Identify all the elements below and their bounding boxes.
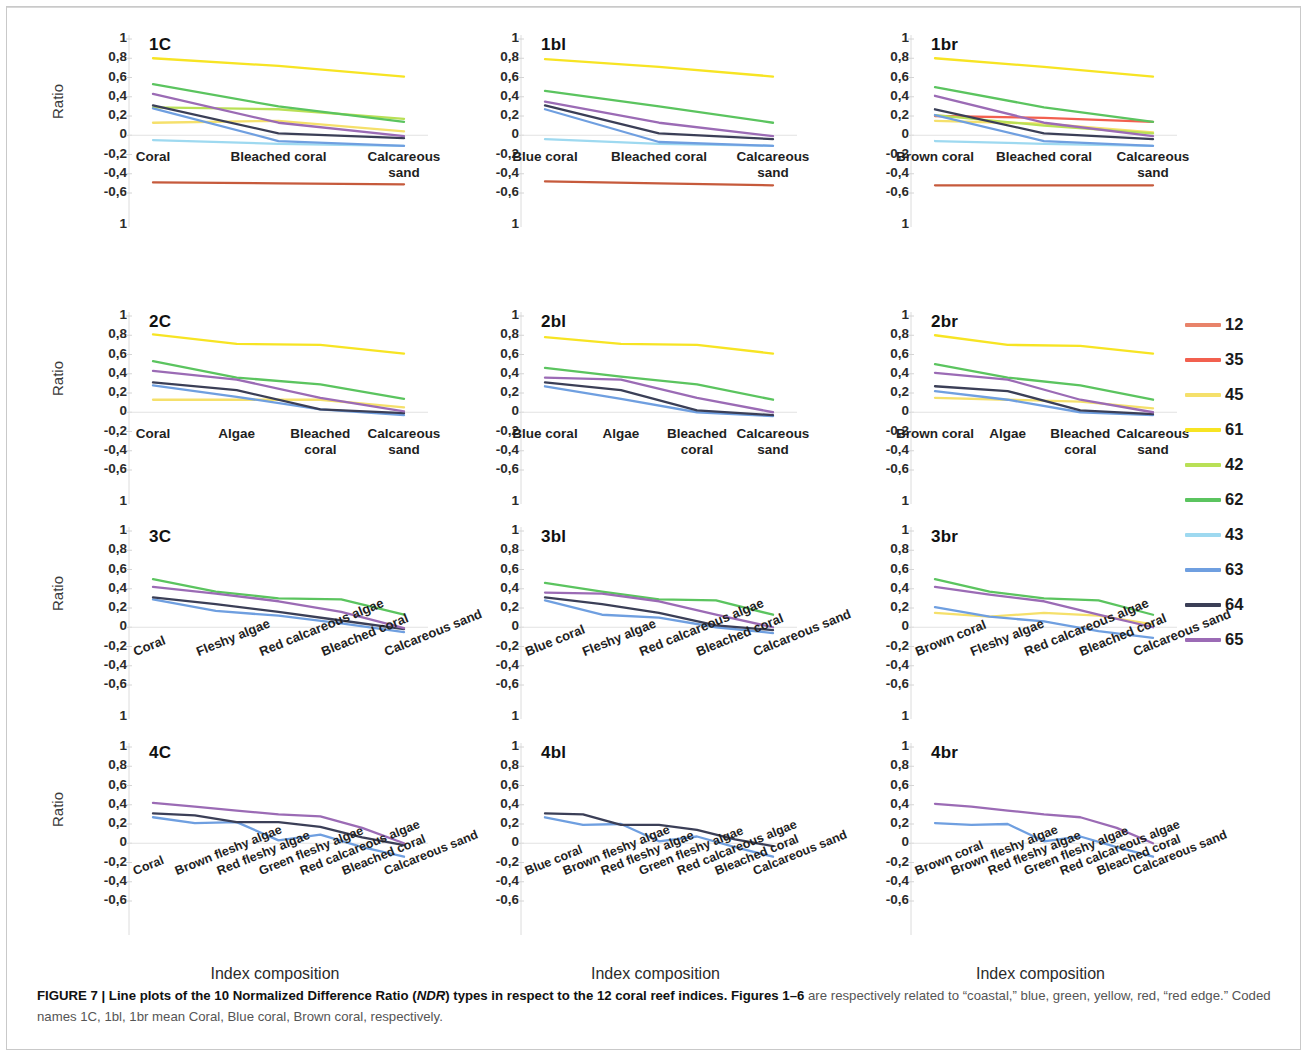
- caption-bold-part: Line plots of the 10 Normalized Differen…: [109, 988, 804, 1003]
- legend-item-62[interactable]: 62: [1185, 482, 1290, 517]
- x-tick-label: Bleached coral: [654, 426, 740, 457]
- legend-label: 61: [1225, 420, 1243, 439]
- x-axis-title: Index composition: [211, 965, 340, 983]
- panel-title-2br: 2br: [931, 312, 958, 332]
- chart-panel-4bl: 10,80,60,40,20-0,2-0,4-0,64blBlue coralB…: [455, 725, 845, 997]
- figure-frame: Ratio10,80,60,40,20-0,2-0,4-0,611CCoralB…: [6, 6, 1301, 1050]
- x-tick-label: Blue coral: [502, 426, 588, 442]
- legend-item-63[interactable]: 63: [1185, 552, 1290, 587]
- series-line-61: [935, 58, 1153, 76]
- legend-item-64[interactable]: 64: [1185, 587, 1290, 622]
- legend-swatch-icon: [1185, 603, 1221, 607]
- legend-label: 42: [1225, 455, 1243, 474]
- panel-title-1br: 1br: [931, 35, 958, 55]
- legend-swatch-icon: [1185, 533, 1221, 537]
- x-axis-title: Index composition: [591, 965, 720, 983]
- panel-title-3br: 3br: [931, 527, 958, 547]
- legend-label: 62: [1225, 490, 1243, 509]
- legend-swatch-icon: [1185, 323, 1221, 327]
- series-line-61: [153, 58, 404, 76]
- x-tick-label: Bleached coral: [607, 149, 711, 165]
- legend-swatch-icon: [1185, 358, 1221, 362]
- legend-swatch-icon: [1185, 498, 1221, 502]
- legend-item-45[interactable]: 45: [1185, 377, 1290, 412]
- x-tick-label: Algae: [578, 426, 664, 442]
- x-tick-label: Calcareous sand: [730, 426, 816, 457]
- series-line-61: [545, 59, 773, 76]
- legend-item-12[interactable]: 12: [1185, 307, 1290, 342]
- legend-label: 63: [1225, 560, 1243, 579]
- caption-figure-label: FIGURE 7 |: [37, 988, 105, 1003]
- panel-title-3C: 3C: [149, 527, 171, 547]
- panel-title-1bl: 1bl: [541, 35, 566, 55]
- series-line-64: [545, 382, 773, 415]
- legend-label: 43: [1225, 525, 1243, 544]
- legend-item-61[interactable]: 61: [1185, 412, 1290, 447]
- legend-label: 12: [1225, 315, 1243, 334]
- series-line-62: [545, 368, 773, 400]
- series-line-61: [545, 337, 773, 353]
- legend-swatch-icon: [1185, 568, 1221, 572]
- x-tick-label: Algae: [194, 426, 280, 442]
- legend-swatch-icon: [1185, 428, 1221, 432]
- x-tick-label: Bleached coral: [227, 149, 331, 165]
- x-tick-label: Coral: [110, 426, 196, 442]
- x-tick-label: Brown coral: [883, 149, 987, 165]
- series-line-65: [545, 378, 773, 413]
- chart-panel-4C: Ratio10,80,60,40,20-0,2-0,4-0,64CCoralBr…: [35, 725, 455, 997]
- panel-title-2C: 2C: [149, 312, 171, 332]
- chart-panel-1br: 10,80,60,40,20-0,2-0,4-0,611brBrown cora…: [845, 17, 1195, 289]
- legend-item-35[interactable]: 35: [1185, 342, 1290, 377]
- chart-panel-1bl: 10,80,60,40,20-0,2-0,4-0,611blBlue coral…: [455, 17, 845, 289]
- x-axis-title: Index composition: [976, 965, 1105, 983]
- x-tick-label: Calcareous sand: [1101, 149, 1205, 180]
- legend-swatch-icon: [1185, 638, 1221, 642]
- panel-title-4br: 4br: [931, 743, 958, 763]
- chart-panel-1C: Ratio10,80,60,40,20-0,2-0,4-0,611CCoralB…: [35, 17, 455, 289]
- caption-italic-ndr: NDR: [417, 988, 446, 1003]
- legend-item-42[interactable]: 42: [1185, 447, 1290, 482]
- plot-grid: Ratio10,80,60,40,20-0,2-0,4-0,611CCoralB…: [7, 7, 1302, 962]
- x-tick-label: Bleached coral: [992, 149, 1096, 165]
- figure-caption: FIGURE 7 | Line plots of the 10 Normaliz…: [37, 985, 1282, 1028]
- legend-label: 35: [1225, 350, 1243, 369]
- x-tick-label: Coral: [101, 149, 205, 165]
- legend-swatch-icon: [1185, 463, 1221, 467]
- series-line-62: [153, 361, 404, 399]
- series-line-12: [545, 181, 773, 185]
- panel-title-4bl: 4bl: [541, 743, 566, 763]
- legend-item-43[interactable]: 43: [1185, 517, 1290, 552]
- x-tick-label: Bleached coral: [277, 426, 363, 457]
- series-line-64: [153, 382, 404, 413]
- panel-title-2bl: 2bl: [541, 312, 566, 332]
- x-tick-label: Calcareous sand: [361, 426, 447, 457]
- x-tick-label: Calcareous sand: [721, 149, 825, 180]
- series-line-12: [153, 182, 404, 184]
- legend-label: 65: [1225, 630, 1243, 649]
- legend-item-65[interactable]: 65: [1185, 622, 1290, 657]
- legend-label: 45: [1225, 385, 1243, 404]
- panel-title-1C: 1C: [149, 35, 171, 55]
- legend-label: 64: [1225, 595, 1243, 614]
- chart-panel-4br: 10,80,60,40,20-0,2-0,4-0,64brBrown coral…: [845, 725, 1195, 997]
- panel-title-3bl: 3bl: [541, 527, 566, 547]
- series-line-61: [935, 335, 1153, 353]
- panel-title-4C: 4C: [149, 743, 171, 763]
- x-tick-label: Blue coral: [493, 149, 597, 165]
- x-tick-label: Calcareous sand: [1110, 426, 1196, 457]
- legend-swatch-icon: [1185, 393, 1221, 397]
- chart-legend: 12354561426243636465: [1185, 307, 1290, 657]
- series-line-61: [153, 334, 404, 353]
- x-tick-label: Calcareous sand: [352, 149, 456, 180]
